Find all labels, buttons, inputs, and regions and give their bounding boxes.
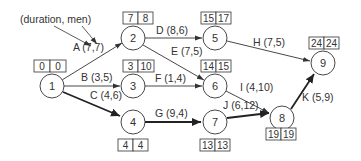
earliest-time: 3 — [128, 61, 134, 72]
svg-text:D (8,6): D (8,6) — [156, 24, 188, 36]
svg-text:C (4,6): C (4,6) — [90, 89, 122, 101]
svg-text:G (9,4): G (9,4) — [155, 107, 188, 119]
node-3: 3 3 10 — [121, 60, 154, 98]
svg-text:4: 4 — [130, 116, 136, 128]
activity-J: J (6,12) — [223, 99, 269, 118]
annotation-label: (duration, men) — [20, 13, 91, 25]
node-9: 9 24 24 — [309, 37, 339, 75]
earliest-time: 14 — [203, 61, 215, 72]
earliest-time: 0 — [39, 61, 45, 72]
svg-text:K (5,9): K (5,9) — [302, 91, 334, 103]
activity-K: K (5,9) — [291, 74, 334, 109]
earliest-time: 24 — [311, 38, 323, 49]
svg-text:E (7,5): E (7,5) — [171, 45, 203, 57]
activity-G: G (9,4) — [145, 107, 201, 122]
node-5: 5 15 17 — [201, 12, 231, 50]
latest-time: 10 — [140, 61, 152, 72]
svg-text:1: 1 — [49, 80, 55, 92]
latest-time: 13 — [217, 140, 229, 151]
node-4: 4 4 4 — [118, 110, 148, 151]
network-diagram: (duration, men) A (7,7) B (3,5) C (4,6) … — [0, 0, 361, 161]
svg-text:6: 6 — [212, 80, 218, 92]
svg-text:5: 5 — [212, 32, 218, 44]
svg-text:F (1,4): F (1,4) — [155, 72, 186, 84]
latest-time: 24 — [326, 38, 338, 49]
svg-text:9: 9 — [320, 57, 326, 69]
svg-text:2: 2 — [130, 32, 136, 44]
activity-C: C (4,6) — [63, 89, 122, 116]
node-7: 7 13 13 — [200, 110, 230, 151]
earliest-time: 4 — [123, 140, 129, 151]
earliest-time: 19 — [268, 129, 280, 140]
latest-time: 15 — [218, 61, 230, 72]
svg-text:8: 8 — [279, 112, 285, 124]
svg-text:I (4,10): I (4,10) — [240, 81, 273, 93]
svg-text:A (7,7): A (7,7) — [73, 41, 104, 53]
activity-D: D (8,6) — [145, 24, 202, 38]
node-8: 8 19 19 — [266, 106, 296, 140]
node-1: 1 0 0 — [34, 60, 66, 98]
latest-time: 19 — [283, 129, 295, 140]
earliest-time: 13 — [202, 140, 214, 151]
latest-time: 4 — [138, 140, 144, 151]
earliest-time: 15 — [203, 13, 215, 24]
svg-text:3: 3 — [130, 80, 136, 92]
node-6: 6 14 15 — [201, 60, 231, 98]
node-2: 2 7 8 — [121, 12, 153, 50]
latest-time: 0 — [55, 61, 61, 72]
svg-text:H (7,5): H (7,5) — [253, 36, 285, 48]
earliest-time: 7 — [128, 13, 134, 24]
activity-H: H (7,5) — [227, 36, 310, 61]
latest-time: 17 — [218, 13, 230, 24]
svg-text:7: 7 — [212, 116, 218, 128]
latest-time: 8 — [143, 13, 149, 24]
svg-text:B (3,5): B (3,5) — [81, 71, 113, 83]
svg-text:J (6,12): J (6,12) — [223, 99, 259, 111]
